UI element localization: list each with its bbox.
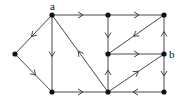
edge-a-to-left: [15, 15, 52, 54]
edge-bm-to-a: [52, 15, 108, 92]
node-b: [161, 51, 166, 56]
node-left: [12, 51, 17, 56]
directed-graph: ab: [0, 0, 183, 103]
edge-bm-to-b: [108, 54, 164, 92]
node-a: [49, 12, 54, 17]
nodes-layer: [12, 12, 166, 94]
edge-left-to-bl: [15, 54, 52, 92]
node-tm: [105, 12, 110, 17]
node-mm: [105, 51, 110, 56]
node-bm: [105, 89, 110, 94]
node-label-b: b: [169, 48, 175, 60]
node-tr: [161, 12, 166, 17]
node-bl: [49, 89, 54, 94]
edges-layer: [15, 12, 167, 95]
node-br: [161, 89, 166, 94]
edge-tr-to-mm: [108, 15, 164, 54]
node-label-a: a: [50, 0, 55, 12]
